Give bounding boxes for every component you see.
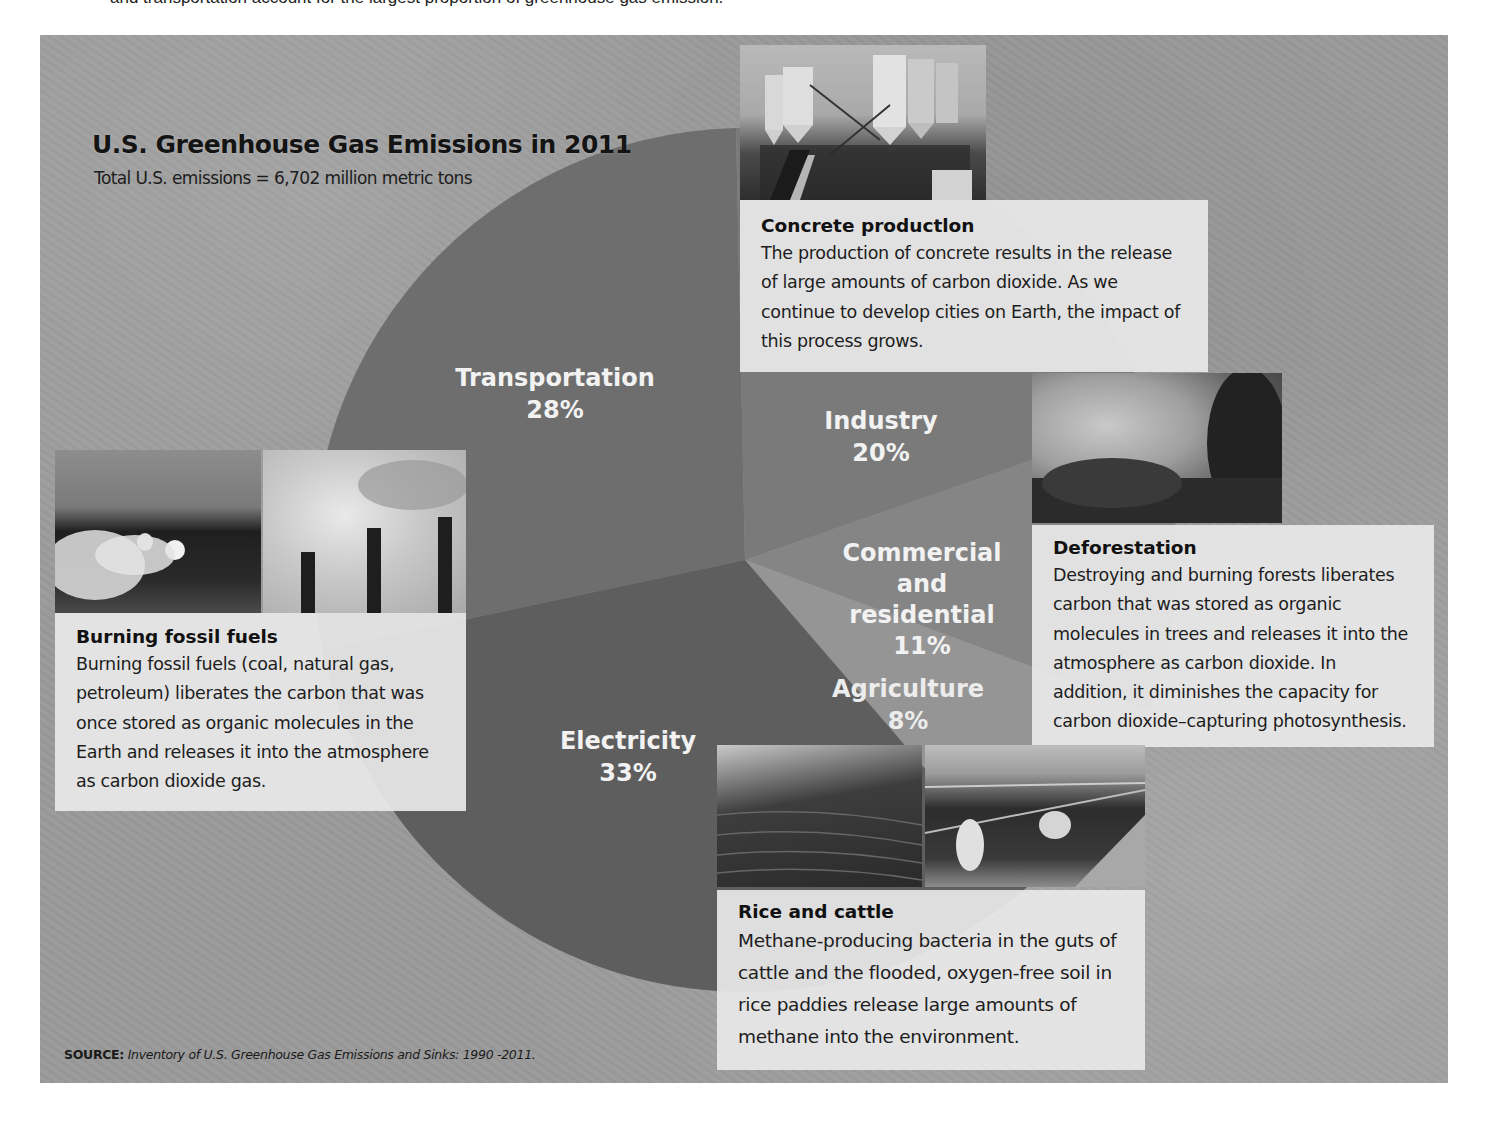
intro-text: and transportation account for the large… bbox=[110, 0, 723, 8]
transportation-label: Transportation bbox=[435, 362, 675, 394]
slice-label-commercial: Commercial and residential 11% bbox=[816, 538, 1028, 662]
electricity-percent: 33% bbox=[548, 757, 708, 789]
slice-label-electricity: Electricity 33% bbox=[548, 725, 708, 789]
fossil-fuels-card-body: Burning fossil fuels (coal, natural gas,… bbox=[76, 650, 446, 796]
burning-forest-photo bbox=[1032, 373, 1282, 523]
exhaust-smoke-icon bbox=[55, 450, 261, 613]
concrete-card-heading: Concrete productlon bbox=[761, 212, 1188, 239]
deforestation-card-body: Destroying and burning forests liberates… bbox=[1053, 561, 1414, 737]
chart-title: U.S. Greenhouse Gas Emissions in 2011 bbox=[92, 130, 632, 159]
commercial-label-line1: Commercial and bbox=[816, 538, 1028, 600]
agriculture-percent: 8% bbox=[828, 705, 988, 737]
source-text: Inventory of U.S. Greenhouse Gas Emissio… bbox=[128, 1047, 536, 1062]
deforestation-card-heading: Deforestation bbox=[1053, 534, 1414, 561]
rice-cattle-card: Rice and cattle Methane-producing bacter… bbox=[717, 890, 1145, 1070]
concrete-card: Concrete productlon The production of co… bbox=[740, 200, 1208, 372]
chart-subtitle: Total U.S. emissions = 6,702 million met… bbox=[94, 168, 472, 188]
fossil-fuels-card-heading: Burning fossil fuels bbox=[76, 623, 446, 650]
fossil-fuels-card: Burning fossil fuels Burning fossil fuel… bbox=[55, 613, 466, 811]
concrete-silos-icon bbox=[740, 45, 986, 200]
industry-percent: 20% bbox=[801, 437, 961, 469]
smokestacks-icon bbox=[263, 450, 466, 613]
cattle-feedlot-photo bbox=[925, 745, 1145, 887]
slice-label-industry: Industry 20% bbox=[801, 405, 961, 469]
rice-cattle-card-body: Methane-producing bacteria in the guts o… bbox=[738, 925, 1125, 1053]
electricity-label: Electricity bbox=[548, 725, 708, 757]
commercial-percent: 11% bbox=[816, 631, 1028, 662]
agriculture-label: Agriculture bbox=[828, 673, 988, 705]
tree-silhouette-icon bbox=[1032, 373, 1282, 523]
terraces-icon bbox=[717, 745, 922, 887]
rice-terraces-photo bbox=[717, 745, 922, 887]
commercial-label-line2: residential bbox=[816, 600, 1028, 631]
car-exhaust-photo bbox=[55, 450, 261, 613]
source-label: SOURCE: bbox=[64, 1047, 124, 1062]
infographic-panel: U.S. Greenhouse Gas Emissions in 2011 To… bbox=[40, 35, 1448, 1083]
deforestation-card: Deforestation Destroying and burning for… bbox=[1032, 525, 1434, 747]
concrete-plant-photo bbox=[740, 45, 986, 200]
slice-label-agriculture: Agriculture 8% bbox=[828, 673, 988, 737]
slice-label-transportation: Transportation 28% bbox=[435, 362, 675, 426]
industry-label: Industry bbox=[801, 405, 961, 437]
source-note: SOURCE: Inventory of U.S. Greenhouse Gas… bbox=[64, 1047, 535, 1062]
cattle-icon bbox=[925, 745, 1145, 887]
smokestacks-photo bbox=[263, 450, 466, 613]
concrete-card-body: The production of concrete results in th… bbox=[761, 239, 1188, 356]
rice-cattle-card-heading: Rice and cattle bbox=[738, 898, 1125, 925]
transportation-percent: 28% bbox=[435, 394, 675, 426]
